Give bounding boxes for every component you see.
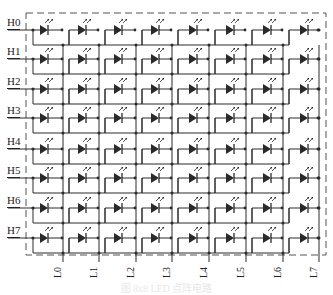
led-icon bbox=[226, 84, 234, 94]
junction-dot bbox=[208, 73, 211, 76]
junction-dot bbox=[170, 177, 173, 180]
led-icon bbox=[226, 144, 234, 154]
led-icon bbox=[114, 144, 122, 154]
junction-dot bbox=[135, 192, 138, 195]
led-icon bbox=[40, 54, 48, 64]
led-icon bbox=[114, 113, 122, 123]
junction-dot bbox=[170, 148, 173, 151]
row-label-h5: H5 bbox=[7, 165, 20, 178]
junction-dot bbox=[318, 58, 321, 61]
led-matrix-diagram bbox=[0, 0, 333, 295]
junction-dot bbox=[98, 252, 101, 255]
led-icon bbox=[263, 113, 271, 123]
junction-dot bbox=[207, 177, 210, 180]
led-icon bbox=[40, 113, 48, 123]
junction-dot bbox=[98, 44, 101, 47]
led-icon bbox=[300, 54, 308, 64]
row-label-h4: H4 bbox=[7, 136, 20, 149]
junction-dot bbox=[207, 237, 210, 240]
column-label-l6: L6 bbox=[273, 267, 283, 278]
junction-dot bbox=[170, 207, 173, 210]
led-icon bbox=[114, 203, 122, 213]
led-icon bbox=[114, 54, 122, 64]
junction-dot bbox=[281, 88, 284, 91]
led-icon bbox=[226, 203, 234, 213]
junction-dot bbox=[171, 103, 174, 106]
junction-dot bbox=[244, 177, 247, 180]
led-icon bbox=[263, 84, 271, 94]
junction-dot bbox=[134, 148, 137, 151]
junction-dot bbox=[61, 117, 64, 120]
led-icon bbox=[226, 25, 234, 35]
junction-dot bbox=[97, 117, 100, 120]
led-icon bbox=[263, 203, 271, 213]
junction-dot bbox=[281, 177, 284, 180]
led-icon bbox=[226, 233, 234, 243]
junction-dot bbox=[208, 103, 211, 106]
led-icon bbox=[114, 84, 122, 94]
junction-dot bbox=[281, 237, 284, 240]
junction-dot bbox=[208, 222, 211, 225]
led-icon bbox=[263, 233, 271, 243]
led-icon bbox=[300, 25, 308, 35]
junction-dot bbox=[98, 163, 101, 166]
junction-dot bbox=[97, 207, 100, 210]
row-label-h3: H3 bbox=[7, 105, 20, 118]
row-label-h1: H1 bbox=[7, 46, 20, 59]
junction-dot bbox=[170, 29, 173, 32]
junction-dot bbox=[282, 132, 285, 135]
junction-dot bbox=[62, 222, 65, 225]
led-icon bbox=[78, 144, 86, 154]
junction-dot bbox=[62, 192, 65, 195]
junction-dot bbox=[281, 148, 284, 151]
junction-dot bbox=[282, 103, 285, 106]
led-icon bbox=[300, 173, 308, 183]
junction-dot bbox=[244, 29, 247, 32]
led-icon bbox=[114, 233, 122, 243]
led-icon bbox=[151, 144, 159, 154]
row-label-h2: H2 bbox=[7, 76, 20, 89]
junction-dot bbox=[134, 29, 137, 32]
junction-dot bbox=[170, 58, 173, 61]
junction-dot bbox=[135, 222, 138, 225]
led-icon bbox=[300, 113, 308, 123]
junction-dot bbox=[171, 222, 174, 225]
led-icon bbox=[78, 54, 86, 64]
junction-dot bbox=[135, 73, 138, 76]
junction-dot bbox=[61, 177, 64, 180]
junction-dot bbox=[171, 132, 174, 135]
junction-dot bbox=[282, 192, 285, 195]
junction-dot bbox=[170, 237, 173, 240]
column-label-l4: L4 bbox=[199, 267, 209, 278]
junction-dot bbox=[208, 132, 211, 135]
led-icon bbox=[151, 233, 159, 243]
junction-dot bbox=[208, 163, 211, 166]
led-icon bbox=[40, 25, 48, 35]
junction-dot bbox=[134, 58, 137, 61]
led-icon bbox=[151, 25, 159, 35]
led-icon bbox=[78, 203, 86, 213]
junction-dot bbox=[135, 252, 138, 255]
led-icon bbox=[40, 144, 48, 154]
junction-dot bbox=[97, 58, 100, 61]
junction-dot bbox=[135, 132, 138, 135]
led-icon bbox=[300, 84, 308, 94]
junction-dot bbox=[244, 237, 247, 240]
column-label-l3: L3 bbox=[162, 267, 172, 278]
row-label-h0: H0 bbox=[7, 17, 20, 30]
junction-dot bbox=[245, 103, 248, 106]
junction-dot bbox=[134, 117, 137, 120]
junction-dot bbox=[207, 207, 210, 210]
junction-dot bbox=[245, 163, 248, 166]
junction-dot bbox=[134, 207, 137, 210]
junction-dot bbox=[244, 207, 247, 210]
led-icon bbox=[151, 113, 159, 123]
junction-dot bbox=[245, 73, 248, 76]
junction-dot bbox=[61, 58, 64, 61]
junction-dot bbox=[135, 44, 138, 47]
junction-dot bbox=[281, 29, 284, 32]
led-icon bbox=[78, 173, 86, 183]
led-icon bbox=[189, 203, 197, 213]
junction-dot bbox=[61, 148, 64, 151]
junction-dot bbox=[207, 88, 210, 91]
